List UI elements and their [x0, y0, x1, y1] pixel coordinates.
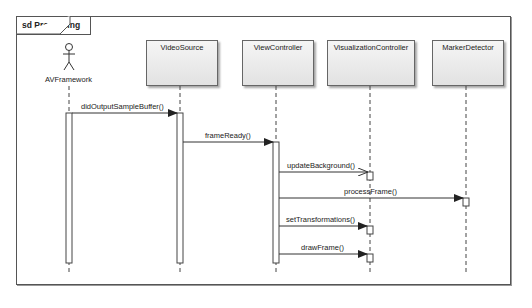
diagram-lines	[0, 0, 532, 308]
frame-notch	[16, 16, 70, 34]
message-label: setTransformations()	[286, 215, 355, 224]
message-label: didOutputSampleBuffer()	[81, 102, 164, 111]
message-label: processFrame()	[344, 187, 397, 196]
actor-icon	[63, 44, 75, 71]
lifeline-dashes	[69, 86, 466, 272]
message-label: frameReady()	[205, 131, 251, 140]
message-label: updateBackground()	[287, 161, 355, 170]
message-label: drawFrame()	[301, 243, 344, 252]
activation-bars	[66, 113, 469, 263]
